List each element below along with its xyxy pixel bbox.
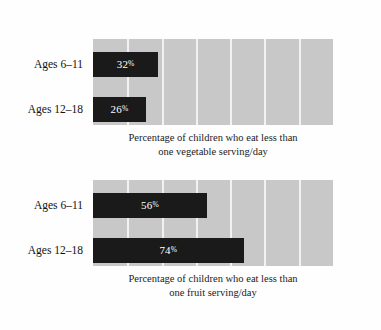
percent-sign: % <box>171 245 177 254</box>
bar-ages-6-11: 56% <box>93 193 207 218</box>
caption-line-2: one fruit serving/day <box>93 286 333 300</box>
bar-value-number: 32 <box>117 58 128 70</box>
bar-value-label: 56% <box>141 200 159 211</box>
bar-value-label: 32% <box>117 59 135 70</box>
category-axis-labels: Ages 6–11 Ages 12–18 <box>0 180 88 266</box>
bars-layer: 56% 74% <box>93 180 333 266</box>
percent-sign: % <box>128 59 134 68</box>
bar-chart-fruit: Ages 6–11 Ages 12–18 56% 74% <box>0 171 381 257</box>
bar-value-label: 74% <box>159 245 177 256</box>
bar-value-number: 74 <box>159 244 170 256</box>
bars-layer: 32% 26% <box>93 39 333 125</box>
figure-page: Ages 6–11 Ages 12–18 32% 26% <box>0 0 381 330</box>
category-label-ages-12-18: Ages 12–18 <box>28 245 83 257</box>
category-label-ages-6-11: Ages 6–11 <box>34 59 83 71</box>
caption-line-2: one vegetable serving/day <box>93 145 333 159</box>
bar-ages-6-11: 32% <box>93 52 158 77</box>
percent-sign: % <box>153 200 159 209</box>
plot-wrapper: Ages 6–11 Ages 12–18 32% 26% <box>0 30 381 116</box>
chart-caption: Percentage of children who eat less than… <box>93 272 333 300</box>
category-label-ages-12-18: Ages 12–18 <box>28 104 83 116</box>
bar-ages-12-18: 26% <box>93 97 146 122</box>
chart-caption: Percentage of children who eat less than… <box>93 131 333 159</box>
plot-area: 32% 26% <box>93 39 333 125</box>
bar-ages-12-18: 74% <box>93 238 244 263</box>
bar-value-number: 56 <box>141 199 152 211</box>
bar-chart-vegetable: Ages 6–11 Ages 12–18 32% 26% <box>0 30 381 116</box>
plot-area: 56% 74% <box>93 180 333 266</box>
category-axis-labels: Ages 6–11 Ages 12–18 <box>0 39 88 125</box>
bar-value-label: 26% <box>111 104 129 115</box>
plot-wrapper: Ages 6–11 Ages 12–18 56% 74% <box>0 171 381 257</box>
category-label-ages-6-11: Ages 6–11 <box>34 200 83 212</box>
caption-line-1: Percentage of children who eat less than <box>93 272 333 286</box>
percent-sign: % <box>122 104 128 113</box>
caption-line-1: Percentage of children who eat less than <box>93 131 333 145</box>
bar-value-number: 26 <box>111 103 122 115</box>
